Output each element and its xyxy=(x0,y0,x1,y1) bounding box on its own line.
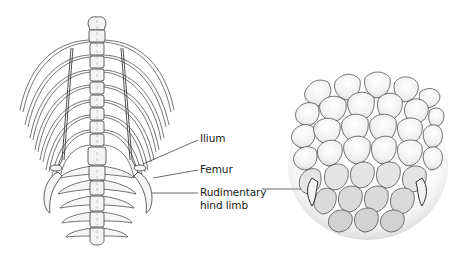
label-ilium: Ilium xyxy=(200,132,225,145)
external-scales-panel xyxy=(288,72,448,240)
ribs-right xyxy=(102,40,174,178)
label-femur: Femur xyxy=(200,163,233,176)
ribs-left xyxy=(20,40,92,178)
label-rudimentary-line1: Rudimentary xyxy=(200,186,266,199)
skeleton-panel xyxy=(20,17,174,245)
vertebral-column xyxy=(88,17,106,245)
femur-spur-right xyxy=(134,165,152,213)
label-rudimentary-line2: hind limb xyxy=(200,199,266,212)
ilium-leader xyxy=(143,140,198,164)
label-rudimentary-hind-limb: Rudimentary hind limb xyxy=(200,186,266,212)
femur-leader xyxy=(153,170,198,178)
figure-canvas xyxy=(0,0,461,255)
scale-row-7 xyxy=(328,208,404,232)
